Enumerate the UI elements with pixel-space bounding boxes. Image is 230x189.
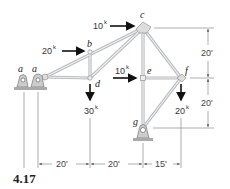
svg-text:10: 10 — [93, 21, 103, 31]
load-e: 10 k — [113, 64, 136, 78]
dimension-horizontal: 20' 20' 15' — [39, 159, 180, 169]
svg-text:k: k — [126, 64, 130, 70]
support-a-left — [14, 75, 31, 91]
svg-text:20: 20 — [175, 106, 185, 116]
truss-joints — [42, 22, 186, 82]
gusset-c — [136, 22, 151, 33]
label-d: d — [95, 78, 101, 89]
svg-text:k: k — [95, 104, 99, 110]
joint-d — [88, 76, 92, 80]
svg-text:30: 30 — [84, 106, 94, 116]
svg-text:10: 10 — [115, 66, 125, 76]
label-c: c — [140, 9, 145, 20]
joint-e — [141, 76, 146, 81]
figure-number: 4.17 — [13, 171, 36, 186]
dim-ce: 20' — [201, 48, 213, 58]
dim-ef: 15' — [155, 159, 167, 169]
label-g: g — [133, 116, 138, 127]
load-c: 10 k — [93, 19, 134, 31]
svg-text:20: 20 — [42, 46, 52, 56]
dim-ad: 20' — [56, 159, 68, 169]
label-e: e — [147, 65, 152, 76]
label-f: f — [185, 65, 189, 76]
svg-text:k: k — [53, 44, 57, 50]
joint-b — [88, 50, 92, 54]
svg-text:k: k — [104, 19, 108, 25]
truss-diagram: a a b c d e f g 20 k 10 k 10 k 30 k 20 k — [0, 0, 230, 189]
joint-a — [42, 74, 48, 80]
load-b: 20 k — [42, 44, 84, 56]
label-a-right: a — [32, 63, 37, 74]
label-a-left: a — [18, 63, 23, 74]
load-f: 20 k — [175, 84, 190, 116]
dim-de: 20' — [108, 159, 120, 169]
dim-eg: 20' — [201, 98, 213, 108]
label-b: b — [87, 38, 92, 49]
svg-text:k: k — [186, 104, 190, 110]
